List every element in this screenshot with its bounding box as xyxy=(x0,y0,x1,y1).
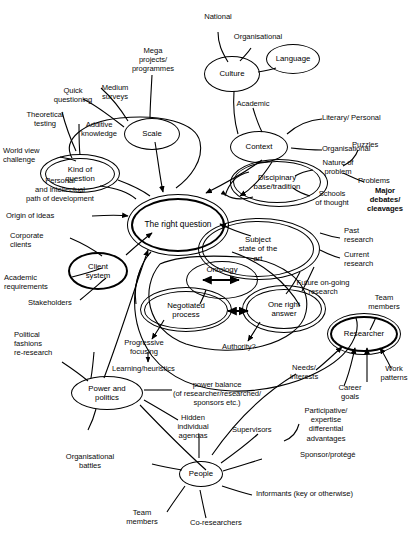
node-scale-label: Scale xyxy=(142,129,162,138)
label-problems: Problems xyxy=(358,176,410,185)
node-power-and-politics-label: Power and politics xyxy=(88,384,125,402)
label-national: National xyxy=(190,12,246,21)
label-authority: Authority? xyxy=(222,342,274,351)
label-work-patterns: Work patterns xyxy=(372,364,416,382)
node-language-label: Language xyxy=(276,54,311,63)
label-past-research: Past research xyxy=(344,226,396,244)
node-researcher[interactable]: Researcher xyxy=(330,316,398,352)
label-current-research: Current research xyxy=(344,250,400,268)
label-participative-expertise: Participative/ expertise differential ad… xyxy=(288,406,364,443)
label-informants: Informants (key or otherwise) xyxy=(256,489,386,498)
node-scale[interactable]: Scale xyxy=(124,118,180,150)
label-additive-knowledge: Additive knowledge xyxy=(68,120,130,138)
node-negotiated-process-label: Negotiated process xyxy=(167,301,205,319)
label-academic-requirements: Academic requirements xyxy=(4,273,76,291)
label-career-goals: Career goals xyxy=(326,383,374,401)
mind-map-diagram: Culture Language Scale Context Kind of q… xyxy=(0,0,418,545)
label-world-view-challenge: World view challenge xyxy=(3,146,65,164)
node-language[interactable]: Language xyxy=(266,44,320,74)
label-stakeholders: Stakeholders xyxy=(28,298,92,307)
label-hidden-agendas: Hidden individual agendas xyxy=(164,413,222,441)
node-people-label: People xyxy=(189,469,213,478)
label-needs-interests: Needs/ interests xyxy=(278,363,330,381)
label-organisational-culture: Organisational xyxy=(222,32,294,41)
label-power-balance: power balance (of researcher/researched/… xyxy=(152,380,282,408)
node-subject-state-label: Subject state of the art xyxy=(239,235,278,263)
node-one-right-answer-label: One right answer xyxy=(268,300,300,318)
label-learning-heuristics: Learning/heuristics xyxy=(112,364,202,373)
label-theoretical-testing: Theoretical testing xyxy=(14,110,76,128)
label-co-researchers: Co-researchers xyxy=(190,518,260,527)
label-mega-projects: Mega projects/ programmes xyxy=(121,46,185,74)
node-context[interactable]: Context xyxy=(230,131,288,163)
label-team-members-people: Team members xyxy=(118,508,166,526)
label-puzzles: Puzzles xyxy=(352,140,400,149)
label-major-debates-cleavages: Major debates/ cleavages xyxy=(356,186,414,214)
node-culture[interactable]: Culture xyxy=(204,56,260,92)
label-team-members-researcher: Team members xyxy=(360,293,408,311)
label-corporate-clients: Corporate clients xyxy=(10,231,68,249)
node-client-system[interactable]: Client system xyxy=(68,252,128,290)
node-the-right-question-label: The right question xyxy=(144,220,211,229)
label-progressive-focusing: Progressive focusing xyxy=(110,338,178,356)
label-literary-personal: Literary/ Personal xyxy=(322,113,416,122)
node-disciplinary-label: Discipinary base/tradition xyxy=(254,173,301,191)
node-ontology-label: Ontology xyxy=(206,265,237,274)
label-nature-of-problem: Nature of problem xyxy=(310,158,366,176)
label-personal-path: Personal and intellectual path of develo… xyxy=(8,176,112,204)
node-negotiated-process[interactable]: Negotiated process xyxy=(144,291,228,329)
label-origin-of-ideas: Origin of ideas xyxy=(6,211,86,220)
label-organisational-battles: Organisational battles xyxy=(48,452,132,470)
node-culture-label: Culture xyxy=(219,69,244,78)
node-people[interactable]: People xyxy=(179,461,223,487)
node-client-system-label: Client system xyxy=(86,262,111,280)
label-political-fashions: Political fashions re-research xyxy=(14,330,80,358)
label-schools-of-thought: Schools of thought xyxy=(306,189,358,207)
label-medium-surveys: Medium surveys xyxy=(88,83,142,101)
node-researcher-label: Researcher xyxy=(344,329,384,338)
label-future-research: Future on-going research xyxy=(280,278,366,296)
label-sponsor-protege: Sponsor/protégé xyxy=(300,450,376,459)
label-supervisors: Supervisors xyxy=(232,425,288,434)
label-academic-context: Academic xyxy=(228,99,278,108)
node-power-and-politics[interactable]: Power and politics xyxy=(71,376,143,410)
node-context-label: Context xyxy=(246,142,273,151)
